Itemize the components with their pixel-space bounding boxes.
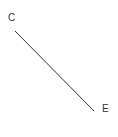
segment-ce [15, 31, 94, 111]
point-label-e: E [102, 103, 109, 114]
diagram-canvas: C E [0, 0, 118, 137]
point-label-c: C [8, 12, 15, 23]
